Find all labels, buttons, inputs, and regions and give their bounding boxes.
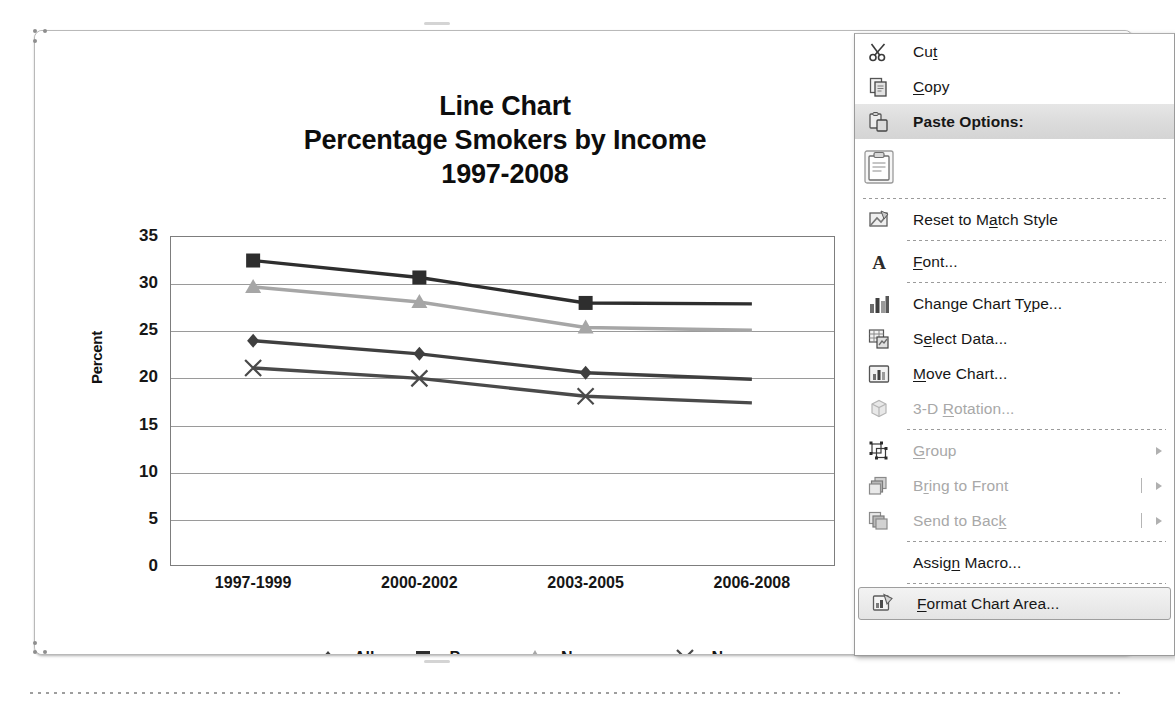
data-point-marker <box>413 347 425 361</box>
x-axis-tick-label: 2000-2002 <box>381 574 458 592</box>
menu-item-paste-gallery[interactable] <box>855 139 1174 195</box>
select-data-icon <box>855 321 903 356</box>
copy-icon <box>855 69 903 104</box>
selection-handle-bl2[interactable] <box>43 650 47 654</box>
chart-title-line-3: 1997-2008 <box>135 157 875 191</box>
svg-text:A: A <box>872 252 886 273</box>
menu-item-3-d-rotation: 3-D Rotation... <box>855 391 1174 426</box>
series-line <box>253 368 752 403</box>
menu-item-reset-to-match-style[interactable]: Reset to Match Style <box>855 202 1174 237</box>
series-near-poor[interactable] <box>245 279 752 334</box>
paste-options-icon <box>855 104 903 139</box>
selection-handle-bl3[interactable] <box>33 641 37 645</box>
menu-item-assign-macro[interactable]: Assign Macro... <box>855 545 1174 580</box>
chart-title-line-2: Percentage Smokers by Income <box>135 123 875 157</box>
selection-handle-tl[interactable] <box>33 29 37 33</box>
series-line <box>253 261 752 304</box>
x-axis-tick-label: 1997-1999 <box>215 574 292 592</box>
menu-item-label: Cut <box>903 43 1174 61</box>
no-icon <box>855 545 903 580</box>
y-axis-tick-label: 20 <box>112 367 158 387</box>
data-point-marker <box>322 651 334 654</box>
chart-title-line-1: Line Chart <box>135 89 875 123</box>
move-chart-icon <box>855 356 903 391</box>
menu-item-divider <box>1141 478 1142 493</box>
x-axis-tick-label: 2003-2005 <box>547 574 624 592</box>
legend-marker-triangle-icon <box>512 648 558 654</box>
menu-item-label: Assign Macro... <box>903 554 1174 572</box>
chevron-right-icon <box>1144 517 1174 525</box>
selection-handle-tl3[interactable] <box>33 39 37 43</box>
menu-item-label: Change Chart Type... <box>903 295 1174 313</box>
menu-item-label: Select Data... <box>903 330 1174 348</box>
y-axis-tick-label: 15 <box>112 415 158 435</box>
menu-item-divider <box>1141 513 1142 528</box>
chart-title[interactable]: Line Chart Percentage Smokers by Income … <box>135 89 875 191</box>
data-point-marker <box>247 334 259 348</box>
menu-item-label: Send to Back <box>903 512 1141 530</box>
series-poor[interactable] <box>246 254 752 310</box>
menu-item-select-data[interactable]: Select Data... <box>855 321 1174 356</box>
y-axis-title: Percent <box>88 331 105 384</box>
reset-style-icon <box>855 202 903 237</box>
selection-handle-bl[interactable] <box>33 650 37 654</box>
y-axis-tick-label: 10 <box>112 462 158 482</box>
legend-item-near-poor[interactable]: Near poor <box>512 648 637 654</box>
chart-legend[interactable]: AllPoorNear poorNonpoor <box>305 643 778 654</box>
menu-item-label: Copy <box>903 78 1174 96</box>
menu-item-send-to-back: Send to Back <box>855 503 1174 538</box>
menu-separator <box>907 429 1166 430</box>
menu-item-label: Format Chart Area... <box>907 595 1170 613</box>
data-point-marker <box>527 650 543 654</box>
selection-handle-bottom-center[interactable] <box>424 660 450 663</box>
menu-item-bring-to-front: Bring to Front <box>855 468 1174 503</box>
y-axis-tick-label: 30 <box>112 273 158 293</box>
menu-item-group: Group <box>855 433 1174 468</box>
legend-label: Nonpoor <box>711 649 778 654</box>
menu-item-paste-options: Paste Options: <box>855 104 1174 139</box>
chevron-right-icon <box>1144 447 1174 455</box>
series-nonpoor[interactable] <box>245 360 752 404</box>
page-guide-dots <box>30 692 1120 694</box>
menu-separator <box>907 240 1166 241</box>
data-point-marker <box>246 254 260 268</box>
series-line <box>253 287 752 330</box>
y-axis-tick-label: 0 <box>112 556 158 576</box>
menu-separator <box>907 541 1166 542</box>
selection-handle-tl2[interactable] <box>43 29 47 33</box>
y-axis-tick-label: 35 <box>112 226 158 246</box>
font-a-icon: A <box>855 244 903 279</box>
context-menu[interactable]: CutCopyPaste Options:Reset to Match Styl… <box>854 33 1175 656</box>
menu-item-label: Font... <box>903 253 1174 271</box>
legend-label: Near poor <box>561 649 637 654</box>
menu-item-format-chart-area[interactable]: Format Chart Area... <box>858 587 1171 620</box>
menu-item-change-chart-type[interactable]: Change Chart Type... <box>855 286 1174 321</box>
x-axis-labels: 1997-19992000-20022003-20052006-2008 <box>170 574 835 600</box>
legend-item-nonpoor[interactable]: Nonpoor <box>662 648 778 654</box>
menu-item-font[interactable]: AFont... <box>855 244 1174 279</box>
menu-item-copy[interactable]: Copy <box>855 69 1174 104</box>
legend-item-poor[interactable]: Poor <box>400 648 485 654</box>
legend-marker-square-icon <box>400 648 446 654</box>
chart-type-icon <box>855 286 903 321</box>
paste-clipboard-icon <box>855 150 903 185</box>
menu-item-label: Reset to Match Style <box>903 211 1174 229</box>
y-axis-ticks: 35302520151050 <box>112 236 158 566</box>
plot-area-wrapper: Percent 35302520151050 1997-19992000-200… <box>90 236 890 596</box>
legend-marker-cross-icon <box>662 648 708 654</box>
cube-3d-icon <box>855 391 903 426</box>
x-axis-tick-label: 2006-2008 <box>714 574 791 592</box>
menu-item-label: Bring to Front <box>903 477 1141 495</box>
data-point-marker <box>416 651 430 654</box>
menu-item-move-chart[interactable]: Move Chart... <box>855 356 1174 391</box>
legend-item-all[interactable]: All <box>305 648 374 654</box>
group-icon <box>855 433 903 468</box>
menu-item-label: 3-D Rotation... <box>903 400 1174 418</box>
menu-item-cut[interactable]: Cut <box>855 34 1174 69</box>
bring-front-icon <box>855 468 903 503</box>
data-point-marker <box>580 366 592 380</box>
selection-handle-top-center[interactable] <box>424 22 450 25</box>
data-point-marker <box>677 650 693 654</box>
series-layer <box>170 236 835 566</box>
chevron-right-icon <box>1144 482 1174 490</box>
